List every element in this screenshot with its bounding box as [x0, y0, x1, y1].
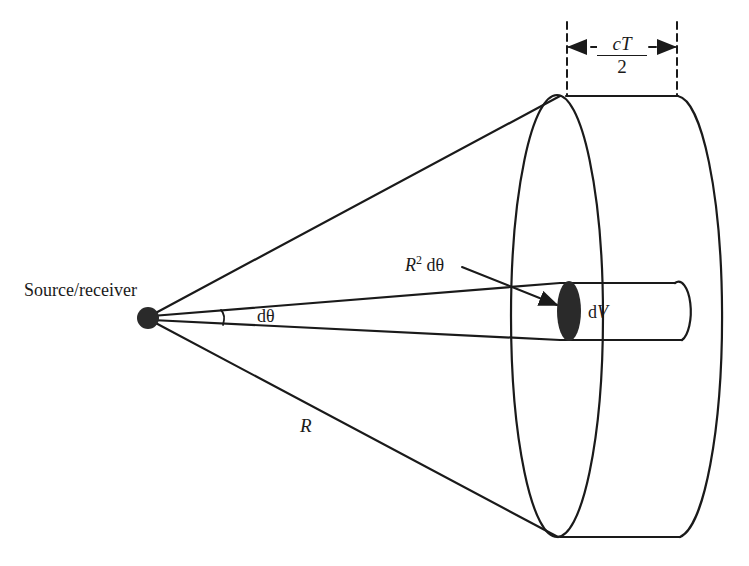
cone-bottom-line — [150, 320, 558, 537]
volume-label: dV — [588, 302, 608, 323]
cone-top-line — [150, 96, 560, 316]
pulse-length-fraction: cT 2 — [597, 34, 647, 78]
area-label-base: R — [405, 255, 416, 275]
volume-label-d: d — [588, 302, 597, 322]
volume-element — [557, 281, 581, 341]
angle-label: dθ — [257, 306, 275, 327]
range-label: R — [300, 415, 312, 437]
area-pointer-arrow — [462, 267, 557, 305]
area-label-rest: dθ — [422, 255, 444, 275]
source-receiver-dot — [137, 307, 159, 329]
pulse-length-numerator: cT — [597, 34, 647, 56]
beam-end-cap — [675, 282, 691, 340]
pulse-length-denominator: 2 — [597, 56, 647, 78]
source-receiver-label: Source/receiver — [24, 280, 137, 301]
area-label: R2 dθ — [405, 253, 444, 276]
back-arc — [678, 96, 722, 537]
volume-label-v: V — [597, 302, 608, 322]
